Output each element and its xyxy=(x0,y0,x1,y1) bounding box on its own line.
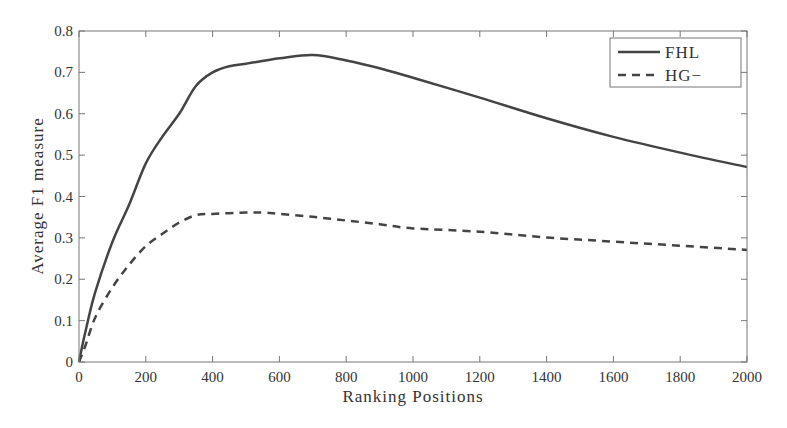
x-tick-label: 1600 xyxy=(598,369,628,385)
y-tick-label: 0.5 xyxy=(54,147,73,163)
line-chart: 020040060080010001200140016001800200000.… xyxy=(0,0,787,428)
y-tick-label: 0.3 xyxy=(54,230,73,246)
y-tick-label: 0.7 xyxy=(54,64,73,80)
x-tick-label: 400 xyxy=(201,369,224,385)
x-tick-label: 1800 xyxy=(665,369,695,385)
x-tick-label: 1000 xyxy=(398,369,428,385)
x-tick-label: 0 xyxy=(75,369,83,385)
legend-label-hg: HG− xyxy=(665,66,702,85)
y-tick-label: 0.1 xyxy=(54,313,73,329)
x-tick-label: 1200 xyxy=(465,369,495,385)
y-axis-label: Average F1 measure xyxy=(28,117,47,274)
x-axis-label: Ranking Positions xyxy=(342,387,483,406)
y-tick-label: 0.4 xyxy=(54,189,73,205)
y-tick-label: 0.6 xyxy=(54,106,73,122)
legend: FHL HG− xyxy=(610,38,741,87)
x-tick-label: 2000 xyxy=(732,369,762,385)
y-tick-label: 0.2 xyxy=(54,271,73,287)
legend-label-fhl: FHL xyxy=(665,43,700,62)
y-tick-label: 0.8 xyxy=(54,23,73,39)
y-tick-label: 0 xyxy=(66,354,74,370)
x-tick-label: 600 xyxy=(268,369,291,385)
x-tick-label: 1400 xyxy=(532,369,562,385)
x-tick-label: 800 xyxy=(335,369,358,385)
x-tick-label: 200 xyxy=(135,369,158,385)
